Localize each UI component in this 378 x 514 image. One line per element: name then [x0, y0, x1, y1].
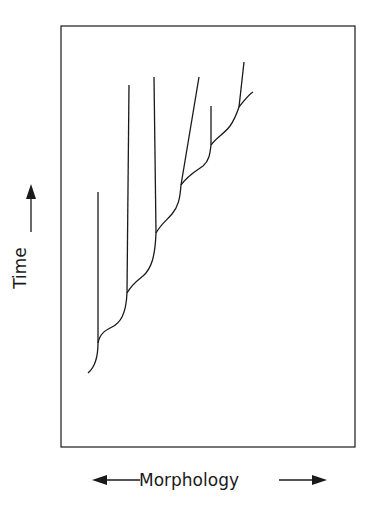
time-arrow-icon [26, 184, 36, 232]
plot-frame [61, 26, 355, 447]
y-axis-label: Time [10, 247, 30, 289]
branch-3 [154, 77, 156, 233]
x-axis-label: Morphology [0, 470, 378, 490]
branch-4 [181, 77, 199, 185]
branch-6 [239, 62, 244, 107]
diagram-canvas [0, 0, 378, 514]
branch-2 [127, 85, 129, 293]
main-lineage-curve [88, 92, 253, 373]
